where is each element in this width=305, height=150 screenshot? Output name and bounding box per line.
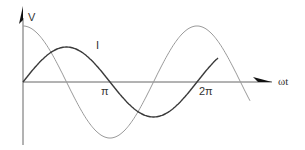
pi-tick-label: π — [101, 86, 109, 97]
x-axis-arrow-icon — [253, 77, 272, 82]
y-axis-arrow-icon — [19, 6, 23, 24]
two-pi-tick-label: 2π — [199, 86, 213, 97]
v-axis-label: V — [28, 12, 35, 23]
phase-diagram — [0, 0, 305, 150]
x-axis-label: ωt — [278, 76, 288, 87]
i-curve-label: I — [96, 40, 99, 51]
